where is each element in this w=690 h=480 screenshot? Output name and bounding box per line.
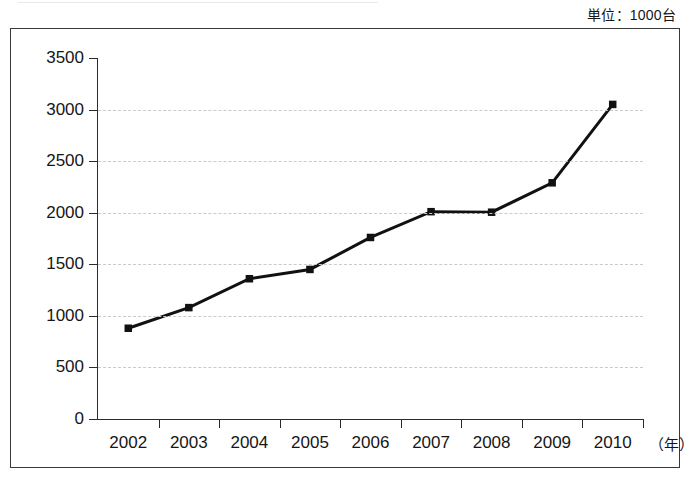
x-axis-tick	[340, 419, 341, 428]
x-axis-tick	[461, 419, 462, 428]
x-axis-unit-label: （年）	[649, 433, 690, 454]
x-axis-tick	[582, 419, 583, 428]
gridline-y	[98, 367, 643, 368]
x-axis-tick	[219, 419, 220, 428]
y-axis-tick	[89, 419, 98, 420]
x-axis-tick	[401, 419, 402, 428]
gridline-y	[98, 316, 643, 317]
data-point-marker	[427, 208, 435, 216]
x-axis-tick	[280, 419, 281, 428]
chart-unit-note: 単位：1000台	[587, 4, 676, 24]
x-axis-label: 2005	[291, 433, 329, 453]
x-axis-label: 2009	[533, 433, 571, 453]
y-axis-label: 0	[75, 409, 84, 429]
data-point-marker	[367, 234, 375, 242]
x-axis-label: 2010	[594, 433, 632, 453]
y-axis-tick	[89, 316, 98, 317]
data-point-marker	[246, 275, 254, 283]
series-line	[128, 104, 612, 328]
x-axis-label: 2003	[170, 433, 208, 453]
x-axis-label: 2004	[230, 433, 268, 453]
y-axis-label: 500	[56, 357, 84, 377]
plot-area: 0500100015002000250030003500200220032004…	[97, 58, 643, 420]
x-axis-tick	[643, 419, 644, 428]
x-axis-label: 2002	[109, 433, 147, 453]
gridline-y	[98, 213, 643, 214]
x-axis-label: 2008	[473, 433, 511, 453]
gridline-y	[98, 161, 643, 162]
y-axis-tick	[89, 110, 98, 111]
data-point-marker	[609, 101, 617, 109]
line-series	[98, 58, 643, 419]
y-axis-label: 1000	[46, 306, 84, 326]
y-axis-label: 1500	[46, 254, 84, 274]
x-axis-tick	[159, 419, 160, 428]
x-axis-label: 2007	[412, 433, 450, 453]
y-axis-label: 2000	[46, 203, 84, 223]
y-axis-label: 3000	[46, 100, 84, 120]
y-axis-label: 2500	[46, 151, 84, 171]
chart-frame: 0500100015002000250030003500200220032004…	[10, 28, 680, 468]
y-axis-tick	[89, 58, 98, 59]
data-point-marker	[125, 324, 133, 332]
gridline-y	[98, 264, 643, 265]
x-axis-label: 2006	[352, 433, 390, 453]
y-axis-tick	[89, 264, 98, 265]
data-point-marker	[185, 304, 193, 312]
y-axis-tick	[89, 213, 98, 214]
y-axis-tick	[89, 367, 98, 368]
scan-artifact-line	[18, 2, 378, 3]
x-axis-tick	[522, 419, 523, 428]
data-point-marker	[548, 179, 556, 187]
data-point-marker	[306, 266, 314, 274]
gridline-y	[98, 110, 643, 111]
y-axis-label: 3500	[46, 48, 84, 68]
y-axis-tick	[89, 161, 98, 162]
